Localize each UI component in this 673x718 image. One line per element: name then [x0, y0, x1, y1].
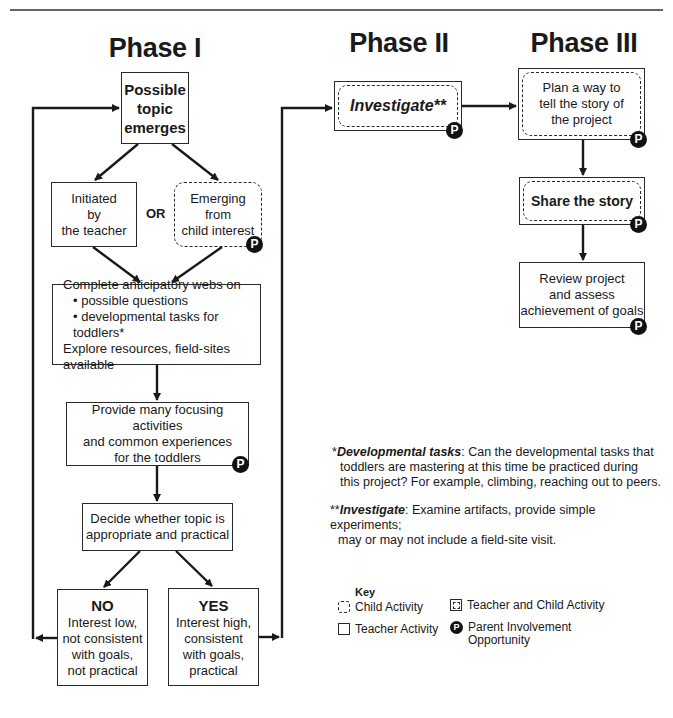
review-project-box: Review project and assess achievement of… [519, 262, 645, 328]
key-label: Parent Involvement Opportunity [468, 621, 571, 647]
key-label: Child Activity [355, 601, 423, 614]
box-text: Share the story [531, 193, 633, 209]
note-term: Developmental tasks [337, 445, 461, 459]
share-story-box: Share the story [519, 177, 645, 225]
investigate-note: **Investigate: Examine artifacts, provid… [330, 503, 660, 548]
box-text: by [87, 207, 101, 223]
parent-involvement-icon: P [630, 216, 647, 233]
decide-topic-box: Decide whether topic is appropriate and … [82, 503, 233, 551]
box-text: practical [189, 663, 237, 679]
box-text: and assess [549, 287, 615, 303]
key-teacher-activity: Teacher Activity [338, 623, 438, 636]
box-text: topic [137, 99, 173, 118]
box-text: with goals, [183, 647, 244, 663]
note-text: may or may not include a field-site visi… [330, 533, 660, 548]
key-child-activity: Child Activity [338, 601, 423, 614]
key-label: Teacher Activity [355, 623, 438, 636]
possible-topic-box: Possible topic emerges [121, 72, 189, 144]
project-phases-flowchart: Phase I Phase II Phase III Possible topi… [0, 0, 673, 718]
parent-involvement-icon: P [232, 456, 249, 473]
box-text: Investigate** [350, 98, 446, 114]
key-title: Key [355, 586, 375, 598]
note-text: : Can the developmental tasks that [461, 445, 653, 459]
note-term: Investigate [340, 503, 405, 517]
bullet-item: • developmental tasks for toddlers* [63, 309, 260, 341]
box-text: Provide many focusing activities [67, 402, 248, 434]
box-text: from [205, 207, 231, 223]
bullet-item: • possible questions [63, 293, 188, 309]
dashed-rounded-box-icon [338, 601, 350, 613]
box-text: the project [551, 112, 612, 128]
box-text: Complete anticipatory webs on [63, 277, 241, 293]
key-parent-involvement: P Parent Involvement Opportunity [450, 621, 571, 647]
box-text: Review project [539, 271, 624, 287]
box-text: Decide whether topic is [90, 511, 224, 527]
key-teacher-and-child-activity: Teacher and Child Activity [450, 599, 604, 612]
box-text: the teacher [61, 223, 126, 239]
box-text: child interest [182, 223, 255, 239]
outcome-heading: NO [91, 596, 114, 615]
box-text: emerges [124, 118, 186, 137]
key-label-line: Opportunity [468, 634, 571, 647]
parent-involvement-icon: P [246, 236, 263, 253]
phase-2-title: Phase II [335, 28, 463, 59]
box-text: Plan a way to [542, 80, 620, 96]
solid-box-icon [338, 623, 350, 635]
box-text: with goals, [72, 647, 133, 663]
note-text: toddlers are mastering at this time be p… [332, 460, 662, 475]
outcome-heading: YES [198, 596, 228, 615]
yes-outcome-box: YES Interest high, consistent with goals… [168, 588, 259, 686]
phase-3-title: Phase III [520, 28, 648, 59]
box-text: not practical [67, 663, 137, 679]
box-text: Explore resources, field-sites available [63, 341, 260, 373]
footnote-marker: ** [330, 503, 340, 517]
parent-p-badge-icon: P [450, 621, 463, 634]
parent-involvement-icon: P [630, 131, 647, 148]
double-box-icon [450, 599, 462, 611]
parent-involvement-icon: P [446, 122, 463, 139]
key-label: Teacher and Child Activity [467, 599, 604, 612]
provide-activities-box: Provide many focusing activities and com… [66, 402, 249, 466]
parent-involvement-icon: P [630, 318, 647, 335]
plan-story-box: Plan a way to tell the story of the proj… [518, 68, 645, 140]
box-text: tell the story of [539, 96, 624, 112]
no-outcome-box: NO Interest low, not consistent with goa… [57, 589, 148, 686]
box-text: achievement of goals [521, 303, 644, 319]
investigate-box: Investigate** [334, 81, 462, 131]
box-text: for the toddlers [114, 450, 201, 466]
note-text: this project? For example, climbing, rea… [332, 475, 662, 490]
box-text: not consistent [62, 631, 142, 647]
box-text: Interest low, [68, 615, 137, 631]
box-text: Possible [124, 80, 186, 99]
developmental-tasks-note: *Developmental tasks: Can the developmen… [332, 445, 662, 490]
box-text: appropriate and practical [86, 527, 229, 543]
complete-webs-box: Complete anticipatory webs on • possible… [52, 284, 261, 365]
box-text: Initiated [71, 191, 117, 207]
or-label: OR [146, 206, 166, 221]
initiated-by-teacher-box: Initiated by the teacher [51, 182, 137, 247]
box-text: consistent [184, 631, 243, 647]
box-text: Interest high, [176, 615, 251, 631]
box-text: Emerging [190, 191, 246, 207]
phase-1-title: Phase I [95, 33, 215, 64]
box-text: and common experiences [83, 434, 232, 450]
